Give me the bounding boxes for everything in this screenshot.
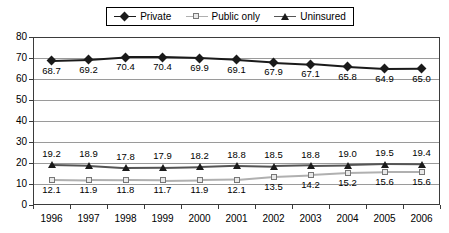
y-axis-tick-label: 60 <box>1 74 27 84</box>
x-axis-tick-mark <box>366 205 367 209</box>
gridline <box>34 142 439 143</box>
y-axis-tick-mark <box>29 142 33 143</box>
x-axis-tick-mark <box>329 205 330 209</box>
x-axis-tick-mark <box>33 205 34 209</box>
y-axis-tick-mark <box>29 79 33 80</box>
legend-marker-uninsured <box>274 12 296 22</box>
legend-item-public-only: Public only <box>186 12 260 22</box>
legend-label-uninsured: Uninsured <box>299 12 346 22</box>
x-axis-tick-label: 2002 <box>254 213 294 224</box>
diamond-icon <box>120 11 130 21</box>
x-axis-tick-mark <box>107 205 108 209</box>
legend-item-uninsured: Uninsured <box>274 12 346 22</box>
gridline <box>34 163 439 164</box>
square-icon <box>193 13 199 19</box>
x-axis-tick-label: 2005 <box>365 213 405 224</box>
x-axis-tick-label: 2006 <box>402 213 442 224</box>
gridline <box>34 184 439 185</box>
legend-label-private: Private <box>139 12 171 22</box>
x-axis-tick-mark <box>440 205 441 209</box>
gridline <box>34 79 439 80</box>
y-axis-tick-label: 40 <box>1 116 27 126</box>
legend-item-private: Private <box>114 12 171 22</box>
x-axis-tick-label: 2001 <box>217 213 257 224</box>
y-axis-tick-label: 80 <box>1 32 27 42</box>
gridline <box>34 121 439 122</box>
x-axis-tick-label: 2004 <box>328 213 368 224</box>
y-axis-tick-mark <box>29 184 33 185</box>
gridline <box>34 100 439 101</box>
y-axis-tick-label: 10 <box>1 179 27 189</box>
y-axis-tick-mark <box>29 37 33 38</box>
x-axis-tick-mark <box>218 205 219 209</box>
x-axis-tick-mark <box>255 205 256 209</box>
x-axis-tick-label: 1998 <box>106 213 146 224</box>
x-axis-tick-mark <box>292 205 293 209</box>
triangle-icon <box>281 13 289 20</box>
legend-label-public-only: Public only <box>211 12 260 22</box>
x-axis-tick-mark <box>144 205 145 209</box>
y-axis-tick-mark <box>29 121 33 122</box>
y-axis-tick-mark <box>29 163 33 164</box>
y-axis-tick-mark <box>29 100 33 101</box>
x-axis-tick-mark <box>70 205 71 209</box>
line-chart: Private Public only Uninsured 0102030405… <box>0 0 449 233</box>
legend-marker-private <box>114 12 136 22</box>
chart-legend: Private Public only Uninsured <box>106 7 354 26</box>
x-axis-tick-label: 1996 <box>32 213 72 224</box>
x-axis-tick-mark <box>181 205 182 209</box>
x-axis-tick-label: 2003 <box>291 213 331 224</box>
x-axis-tick-mark <box>403 205 404 209</box>
y-axis-tick-label: 0 <box>1 200 27 210</box>
y-axis-tick-label: 70 <box>1 53 27 63</box>
y-axis-tick-mark <box>29 58 33 59</box>
x-axis-tick-label: 1999 <box>143 213 183 224</box>
x-axis-tick-label: 1997 <box>69 213 109 224</box>
y-axis-tick-label: 50 <box>1 95 27 105</box>
y-axis-tick-label: 30 <box>1 137 27 147</box>
plot-area <box>33 37 440 205</box>
gridline <box>34 58 439 59</box>
legend-marker-public-only <box>186 12 208 22</box>
y-axis-tick-label: 20 <box>1 158 27 168</box>
x-axis-tick-label: 2000 <box>180 213 220 224</box>
